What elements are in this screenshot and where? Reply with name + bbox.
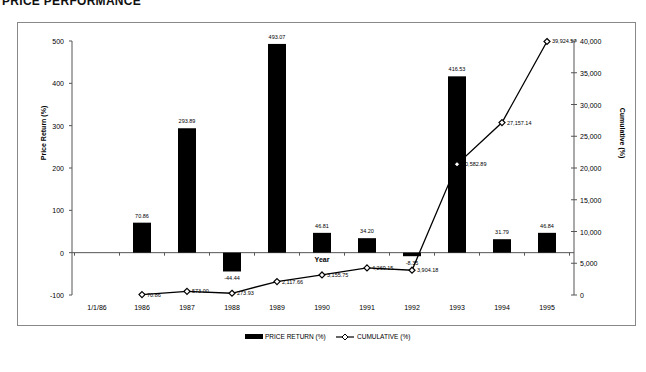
left-tick-label: 400 [52,80,64,87]
bar-value-label: 493.07 [269,34,286,40]
line-value-label: 573.00 [192,288,209,294]
x-tick-label: 1988 [224,304,240,311]
x-tick-label: 1989 [269,304,285,311]
bar-value-label: 46.84 [540,223,554,229]
cumulative-marker-diamond-icon [364,265,370,271]
bar-value-label: 293.89 [179,118,196,124]
price-return-bar [538,233,556,253]
line-value-label: 27,157.14 [507,120,531,126]
bar-value-label: -44.44 [224,275,240,281]
left-tick-label: 500 [52,38,64,45]
right-tick-label: 25,000 [580,133,602,140]
x-tick-label: 1/1/86 [87,304,107,311]
price-return-bar [178,128,196,252]
x-tick-label: 1993 [449,304,465,311]
right-tick-label: 0 [580,292,584,299]
left-tick-label: 100 [52,207,64,214]
cumulative-line [142,41,547,294]
x-axis-title: Year [315,256,330,263]
line-value-label: 3,155.75 [327,272,348,278]
x-tick-label: 1986 [134,304,150,311]
left-tick-label: -100 [50,292,64,299]
line-value-label: 20,582.89 [462,161,486,167]
line-value-label: 39,924.57 [552,38,576,44]
cumulative-marker-diamond-icon [139,292,145,298]
legend-bar-label: PRICE RETURN (%) [265,333,326,341]
x-tick-label: 1995 [539,304,555,311]
legend-bar-swatch [245,334,263,339]
cumulative-marker-diamond-icon [409,267,415,273]
right-tick-label: 10,000 [580,229,602,236]
bar-value-label: 34.20 [360,228,374,234]
cumulative-marker-diamond-icon [229,290,235,296]
x-tick-label: 1990 [314,304,330,311]
cumulative-marker-diamond-icon [319,272,325,278]
cumulative-marker-diamond-icon [274,279,280,285]
left-tick-label: 200 [52,165,64,172]
bar-value-label: 70.86 [135,213,149,219]
left-tick-label: 300 [52,123,64,130]
legend-line-label: CUMULATIVE (%) [357,333,410,341]
line-value-label: 3,904.18 [417,267,438,273]
line-value-label: 70.86 [147,292,161,298]
legend-diamond-icon [342,334,348,340]
line-value-label: 2,117.66 [282,279,303,285]
left-tick-label: 0 [60,250,64,257]
cumulative-marker-diamond-icon [184,288,190,294]
right-tick-label: 15,000 [580,197,602,204]
right-tick-label: 40,000 [580,38,602,45]
y-right-title: Cumulative (%) [618,108,626,159]
y-left-title: Price Return (%) [40,106,48,160]
right-tick-label: 30,000 [580,102,602,109]
line-value-label: 273.93 [237,290,254,296]
right-tick-label: 35,000 [580,70,602,77]
line-value-label: 4,269.15 [372,265,393,271]
price-return-bar [493,239,511,252]
x-tick-label: 1992 [404,304,420,311]
price-return-bar [313,233,331,253]
bar-value-label: 31.79 [495,229,509,235]
price-return-bar [223,253,241,272]
x-tick-label: 1987 [179,304,195,311]
combo-chart: 5004003002001000-10040,00035,00030,00025… [0,0,646,372]
x-tick-label: 1994 [494,304,510,311]
right-tick-label: 5,000 [580,260,598,267]
cumulative-marker-diamond-icon [544,38,550,44]
price-return-bar [358,238,376,252]
price-return-bar [133,223,151,253]
bar-value-label: 416.53 [449,66,466,72]
x-tick-label: 1991 [359,304,375,311]
right-tick-label: 20,000 [580,165,602,172]
bar-value-label: 46.81 [315,223,329,229]
price-return-bar [268,44,286,253]
